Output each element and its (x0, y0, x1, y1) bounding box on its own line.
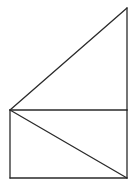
rectangle-diagonal (10, 110, 127, 178)
triangle-hypotenuse (10, 8, 127, 110)
geometry-diagram (0, 0, 138, 188)
